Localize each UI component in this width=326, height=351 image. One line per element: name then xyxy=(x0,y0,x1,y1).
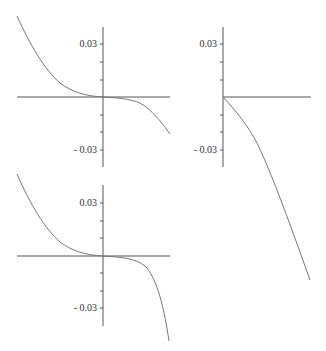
tick-label-pos: 0.03 xyxy=(80,197,98,208)
plot-top-left: 0.03 - 0.03 xyxy=(17,16,170,167)
plot-bottom-left: 0.03 - 0.03 xyxy=(17,174,170,341)
tick-label-pos: 0.03 xyxy=(200,38,218,49)
curve xyxy=(223,97,310,280)
figure: 0.03 - 0.03 0.03 - 0.03 0.03 xyxy=(0,0,326,351)
tick-label-pos: 0.03 xyxy=(80,38,98,49)
tick-label-neg: - 0.03 xyxy=(74,302,97,313)
tick-label-neg: - 0.03 xyxy=(194,144,217,155)
tick-label-neg: - 0.03 xyxy=(74,144,97,155)
curve xyxy=(17,16,170,134)
plot-right: 0.03 - 0.03 xyxy=(194,27,311,280)
